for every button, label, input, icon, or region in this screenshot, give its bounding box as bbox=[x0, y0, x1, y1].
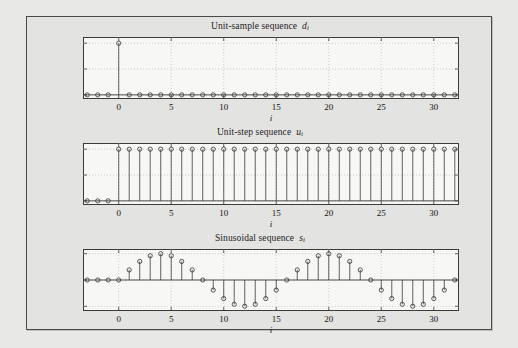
panel-title-subscript: i bbox=[301, 130, 303, 138]
panel-sinusoidal: Sinusoidal sequence si -101051015202530i bbox=[27, 233, 493, 335]
figure-border: Unit-sample sequence di 00.5105101520253… bbox=[26, 16, 492, 330]
panel-title-text: Unit-step sequence bbox=[217, 127, 291, 137]
panel-title-subscript: i bbox=[307, 24, 309, 32]
x-axis-label: i bbox=[270, 113, 273, 123]
x-tick-label: 20 bbox=[324, 208, 333, 218]
x-tick-label: 20 bbox=[324, 102, 333, 112]
x-tick-label: 25 bbox=[377, 314, 386, 324]
x-tick-label: 5 bbox=[169, 102, 174, 112]
x-tick-label: 10 bbox=[219, 208, 228, 218]
figure-root: Unit-sample sequence di 00.5105101520253… bbox=[0, 0, 518, 348]
panel-title-subscript: i bbox=[303, 236, 305, 244]
plot-layer-unit-sample bbox=[83, 37, 459, 99]
x-tick-label: 5 bbox=[169, 208, 174, 218]
plot-layer-unit-step bbox=[83, 143, 459, 205]
x-tick-label: 0 bbox=[116, 102, 121, 112]
x-tick-label: 20 bbox=[324, 314, 333, 324]
panel-title-unit-step: Unit-step sequence ui bbox=[27, 127, 493, 138]
panel-title-text: Unit-sample sequence bbox=[211, 21, 297, 31]
panel-title-unit-sample: Unit-sample sequence di bbox=[27, 21, 493, 32]
x-tick-label: 10 bbox=[219, 102, 228, 112]
panel-title-text: Sinusoidal sequence bbox=[215, 233, 294, 243]
x-tick-label: 15 bbox=[272, 208, 281, 218]
x-tick-label: 30 bbox=[429, 102, 438, 112]
x-tick-label: 15 bbox=[272, 102, 281, 112]
x-axis-label: i bbox=[270, 325, 273, 335]
x-tick-label: 10 bbox=[219, 314, 228, 324]
panel-unit-sample: Unit-sample sequence di 00.5105101520253… bbox=[27, 21, 493, 123]
plot-layer-sinusoidal bbox=[83, 249, 459, 311]
x-tick-label: 25 bbox=[377, 102, 386, 112]
x-tick-label: 30 bbox=[429, 208, 438, 218]
x-tick-label: 30 bbox=[429, 314, 438, 324]
x-tick-label: 25 bbox=[377, 208, 386, 218]
x-tick-label: 15 bbox=[272, 314, 281, 324]
panel-unit-step: Unit-step sequence ui 00.51051015202530i bbox=[27, 127, 493, 229]
x-axis-label: i bbox=[270, 219, 273, 229]
panel-title-sinusoidal: Sinusoidal sequence si bbox=[27, 233, 493, 244]
x-tick-label: 5 bbox=[169, 314, 174, 324]
x-tick-label: 0 bbox=[116, 208, 121, 218]
x-tick-label: 0 bbox=[116, 314, 121, 324]
